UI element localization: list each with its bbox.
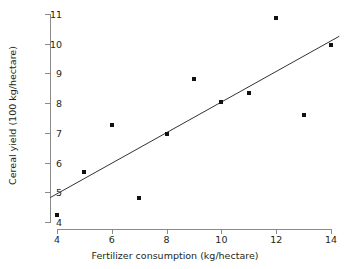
y-tick-label: 8 bbox=[56, 98, 62, 109]
scatter-plot-figure: 4567891011 Cereal yield (100 kg/hectare)… bbox=[0, 0, 350, 269]
y-tick-label: 4 bbox=[56, 217, 62, 228]
x-tick-label: 14 bbox=[325, 234, 337, 245]
x-axis-title: Fertilizer consumption (kg/hectare) bbox=[0, 250, 350, 261]
data-point bbox=[55, 213, 59, 217]
data-point bbox=[82, 170, 86, 174]
data-point bbox=[329, 43, 333, 47]
data-point bbox=[247, 91, 251, 95]
x-tick-label: 6 bbox=[109, 234, 115, 245]
x-axis-line bbox=[57, 229, 332, 230]
data-point bbox=[302, 113, 306, 117]
data-point bbox=[165, 132, 169, 136]
data-point bbox=[110, 123, 114, 127]
data-point bbox=[274, 16, 278, 20]
x-tick-label: 4 bbox=[54, 234, 60, 245]
y-tick bbox=[45, 192, 50, 193]
y-tick-label: 10 bbox=[50, 38, 62, 49]
y-tick bbox=[45, 133, 50, 134]
y-tick bbox=[45, 103, 50, 104]
y-axis-title: Cereal yield (100 kg/hectare) bbox=[7, 16, 18, 216]
x-tick-label: 12 bbox=[270, 234, 282, 245]
data-point bbox=[192, 77, 196, 81]
y-tick-label: 6 bbox=[56, 157, 62, 168]
y-tick bbox=[45, 163, 50, 164]
data-point bbox=[219, 100, 223, 104]
x-tick-label: 10 bbox=[215, 234, 227, 245]
y-tick bbox=[45, 222, 50, 223]
y-tick-label: 5 bbox=[56, 187, 62, 198]
y-tick-label: 7 bbox=[56, 127, 62, 138]
data-point bbox=[137, 196, 141, 200]
y-tick-label: 11 bbox=[50, 9, 62, 20]
y-tick-label: 9 bbox=[56, 68, 62, 79]
x-tick-label: 8 bbox=[164, 234, 170, 245]
y-tick bbox=[45, 73, 50, 74]
